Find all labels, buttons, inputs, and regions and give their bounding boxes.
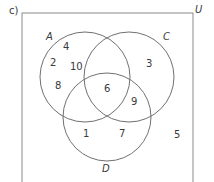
- region-c-d-only: 9: [131, 97, 137, 107]
- set-d-label: D: [102, 164, 110, 174]
- region-a-only-top: 4: [63, 42, 69, 52]
- region-c-only: 3: [146, 59, 152, 69]
- region-outside: 5: [174, 130, 180, 140]
- region-a-only-bottom: 8: [55, 81, 61, 91]
- region-d-only-left: 1: [83, 129, 89, 139]
- region-a-c-d: 6: [104, 84, 110, 94]
- region-d-only-right: 7: [119, 129, 125, 139]
- set-a-label: A: [46, 32, 53, 42]
- region-a-only-left: 2: [50, 58, 56, 68]
- set-c-circle: [84, 32, 174, 122]
- set-a-circle: [40, 32, 130, 122]
- universal-set-label: U: [195, 5, 202, 15]
- set-c-label: C: [163, 32, 170, 42]
- part-label: c): [9, 6, 18, 16]
- region-a-only-mid: 10: [70, 62, 83, 72]
